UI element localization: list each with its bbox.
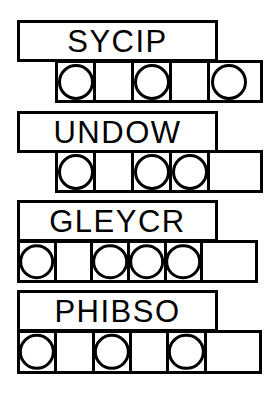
answer-cell[interactable]	[167, 243, 204, 280]
circle-marker-icon	[168, 334, 204, 370]
answer-cell[interactable]	[95, 333, 132, 371]
circle-marker-icon	[166, 244, 202, 280]
answer-cell[interactable]	[57, 243, 94, 280]
circle-marker-icon	[58, 64, 94, 100]
answer-cell-row	[17, 240, 258, 283]
answer-cell[interactable]	[58, 153, 96, 190]
answer-cell[interactable]	[130, 243, 167, 280]
answer-cell[interactable]	[210, 63, 248, 100]
answer-cell[interactable]	[134, 153, 172, 190]
circle-marker-icon	[92, 244, 128, 280]
circle-marker-icon	[211, 64, 247, 100]
answer-cell[interactable]	[134, 63, 172, 100]
word-box[interactable]: UNDOW	[17, 111, 218, 153]
circle-marker-icon	[94, 334, 130, 370]
answer-cell[interactable]	[172, 63, 210, 100]
puzzle-canvas: SYCIPUNDOWGLEYCRPHIBSO	[0, 0, 279, 396]
circle-marker-icon	[172, 154, 208, 190]
answer-cell[interactable]	[203, 243, 240, 280]
answer-cell[interactable]	[57, 333, 94, 371]
circle-marker-icon	[19, 244, 55, 280]
word-box[interactable]: SYCIP	[17, 20, 218, 62]
answer-cell-row	[17, 330, 262, 374]
circle-marker-icon	[58, 154, 94, 190]
word-label: GLEYCR	[49, 206, 185, 237]
answer-cell[interactable]	[172, 153, 210, 190]
answer-cell[interactable]	[20, 243, 57, 280]
word-label: UNDOW	[53, 117, 181, 148]
answer-cell[interactable]	[132, 333, 169, 371]
circle-marker-icon	[129, 244, 165, 280]
circle-marker-icon	[134, 154, 170, 190]
answer-cell[interactable]	[96, 63, 134, 100]
answer-cell[interactable]	[207, 333, 244, 371]
word-label: SYCIP	[67, 26, 168, 57]
circle-marker-icon	[134, 64, 170, 100]
circle-marker-icon	[19, 334, 55, 370]
answer-cell[interactable]	[58, 63, 96, 100]
word-box[interactable]: PHIBSO	[17, 290, 218, 332]
answer-cell[interactable]	[210, 153, 248, 190]
answer-cell[interactable]	[93, 243, 130, 280]
answer-cell-row	[55, 150, 263, 193]
answer-cell[interactable]	[96, 153, 134, 190]
answer-cell-row	[55, 60, 263, 103]
word-label: PHIBSO	[54, 296, 180, 327]
answer-cell[interactable]	[20, 333, 57, 371]
word-box[interactable]: GLEYCR	[17, 200, 218, 242]
answer-cell[interactable]	[169, 333, 206, 371]
